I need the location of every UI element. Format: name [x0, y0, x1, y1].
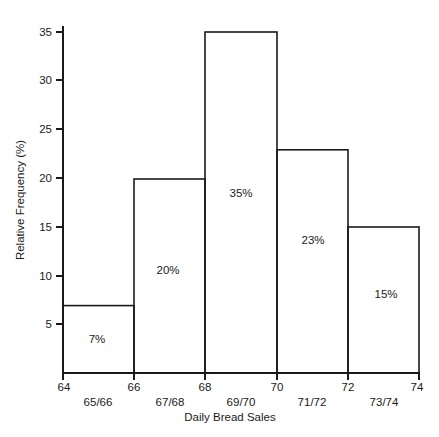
y-tick-label-15: 15 [39, 221, 52, 233]
x-tick-marks [63, 373, 419, 380]
bar-67-68 [134, 179, 205, 373]
x-tick-label-74: 74 [411, 381, 424, 393]
x-tick-label-70: 70 [271, 381, 284, 393]
x-category-label-2: 67/68 [156, 396, 185, 408]
histogram-chart: 35 30 25 20 15 10 5 64 66 68 70 72 74 65… [0, 0, 439, 437]
y-axis-title: Relative Frequency (%) [14, 140, 26, 260]
bar-71-72 [277, 150, 348, 373]
y-tick-label-5: 5 [46, 318, 52, 330]
y-tick-label-10: 10 [39, 270, 52, 282]
bar-value-label-69-70: 35% [229, 187, 252, 199]
bar-value-label-67-68: 20% [156, 264, 179, 276]
x-category-label-3: 69/70 [227, 396, 256, 408]
x-tick-label-66: 66 [128, 381, 141, 393]
x-tick-label-72: 72 [342, 381, 355, 393]
x-tick-label-68: 68 [199, 381, 212, 393]
y-tick-label-35: 35 [39, 26, 52, 38]
chart-canvas: 35 30 25 20 15 10 5 64 66 68 70 72 74 65… [0, 0, 439, 437]
x-category-label-5: 73/74 [370, 396, 399, 408]
bar-73-74 [348, 227, 419, 373]
y-tick-marks [56, 32, 63, 324]
y-tick-label-30: 30 [39, 74, 52, 86]
y-tick-label-20: 20 [39, 172, 52, 184]
x-axis-title: Daily Bread Sales [184, 411, 276, 423]
bar-69-70 [205, 32, 277, 373]
y-tick-label-25: 25 [39, 123, 52, 135]
x-category-label-1: 65/66 [84, 396, 113, 408]
x-tick-label-64: 64 [58, 381, 71, 393]
bar-value-label-65-66: 7% [89, 333, 106, 345]
x-category-label-4: 71/72 [298, 396, 327, 408]
bar-value-label-73-74: 15% [374, 288, 397, 300]
bar-value-label-71-72: 23% [301, 234, 324, 246]
